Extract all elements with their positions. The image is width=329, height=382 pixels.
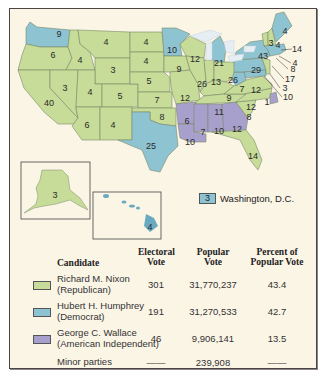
ev-ga: 12 bbox=[232, 124, 242, 134]
ev-al: 10 bbox=[214, 126, 224, 136]
ev-nc: 12 bbox=[246, 102, 256, 112]
ev-ma: 14 bbox=[292, 44, 302, 54]
ev-mi: 21 bbox=[214, 58, 224, 68]
table-row-wallace: George C. Wallace (American Independent)… bbox=[0, 328, 329, 354]
ev-nc-wallace: 1 bbox=[264, 97, 269, 107]
ev-md: 10 bbox=[283, 92, 293, 102]
popular-vote: 31,270,533 bbox=[183, 306, 243, 317]
percent-vote: 43.4 bbox=[255, 279, 299, 290]
percent-vote: 13.5 bbox=[255, 333, 299, 344]
ev-ne: 5 bbox=[146, 76, 151, 86]
electoral-vote: 191 bbox=[141, 306, 171, 317]
ev-nm: 4 bbox=[110, 120, 115, 130]
ev-ny: 43 bbox=[258, 51, 268, 61]
popular-vote: 9,906,141 bbox=[183, 333, 243, 344]
ev-ar: 6 bbox=[184, 116, 189, 126]
ev-ca: 40 bbox=[44, 98, 54, 108]
ev-ok: 8 bbox=[159, 112, 164, 122]
state-fl bbox=[212, 130, 262, 170]
ev-wv: 7 bbox=[239, 84, 244, 94]
candidate-name: Hubert H. Humphrey bbox=[57, 301, 144, 312]
percent-vote: 42.7 bbox=[255, 306, 299, 317]
header-electoral-vote: Electoral Vote bbox=[138, 247, 174, 267]
ev-mn: 10 bbox=[167, 45, 177, 55]
state-nm bbox=[100, 107, 132, 140]
ev-me: 4 bbox=[282, 26, 287, 36]
candidate-name: Richard M. Nixon bbox=[57, 274, 130, 285]
ev-ks: 7 bbox=[154, 95, 159, 105]
ev-tn: 11 bbox=[214, 107, 223, 117]
lake-michigan bbox=[206, 42, 212, 60]
electoral-vote: —— bbox=[141, 357, 171, 368]
ev-ky: 9 bbox=[226, 93, 231, 103]
ev-ia: 9 bbox=[176, 64, 181, 74]
candidate-party: (Republican) bbox=[57, 285, 130, 296]
ev-la: 10 bbox=[185, 137, 195, 147]
ev-tx: 25 bbox=[146, 141, 156, 151]
ev-ms: 7 bbox=[200, 127, 205, 137]
candidate-name: Minor parties bbox=[57, 357, 112, 368]
ev-ak: 3 bbox=[52, 190, 57, 200]
dc-label: Washington, D.C. bbox=[220, 193, 294, 204]
ev-va: 12 bbox=[251, 85, 261, 95]
ev-or: 6 bbox=[50, 50, 55, 60]
ev-az: 6 bbox=[84, 120, 89, 130]
ev-vt: 3 bbox=[268, 38, 273, 48]
dc-legend: 3 Washington, D.C. bbox=[199, 193, 294, 204]
ev-in: 13 bbox=[211, 77, 221, 87]
ev-hi: 4 bbox=[147, 222, 152, 232]
table-row-humphrey: Hubert H. Humphrey (Democrat) 191 31,270… bbox=[0, 301, 329, 327]
popular-vote: 31,770,237 bbox=[183, 279, 243, 290]
ev-ut: 4 bbox=[87, 87, 92, 97]
ev-nd: 4 bbox=[143, 37, 148, 47]
ev-fl: 14 bbox=[248, 151, 258, 161]
swatch-american-independent bbox=[33, 335, 51, 344]
swatch-republican bbox=[33, 281, 51, 290]
ev-oh: 26 bbox=[228, 75, 238, 85]
header-candidate: Candidate bbox=[57, 258, 99, 268]
ev-wa: 9 bbox=[56, 29, 61, 39]
ev-wy: 3 bbox=[110, 65, 115, 75]
ev-wi: 12 bbox=[190, 54, 200, 64]
popular-vote: 239,908 bbox=[183, 357, 243, 368]
state-wa bbox=[26, 22, 70, 47]
percent-vote: —— bbox=[255, 357, 299, 368]
ev-pa: 29 bbox=[251, 65, 261, 75]
header-popular-vote: Popular Vote bbox=[188, 247, 238, 267]
table-row-nixon: Richard M. Nixon (Republican) 301 31,770… bbox=[0, 274, 329, 300]
electoral-vote: 301 bbox=[141, 279, 171, 290]
ev-id: 4 bbox=[77, 55, 82, 65]
ev-nv: 3 bbox=[62, 83, 67, 93]
state-nc-wallace bbox=[270, 92, 278, 104]
ev-mo: 12 bbox=[180, 93, 190, 103]
table-row-minor: Minor parties —— 239,908 —— bbox=[0, 355, 329, 381]
state-or bbox=[18, 44, 72, 70]
swatch-democrat bbox=[33, 308, 51, 317]
lake-ontario bbox=[244, 46, 256, 52]
header-percent: Percent of Popular Vote bbox=[243, 247, 311, 267]
ev-sc: 8 bbox=[246, 112, 251, 122]
electoral-vote: 46 bbox=[141, 333, 171, 344]
ev-il: 26 bbox=[197, 79, 207, 89]
ev-nh: 4 bbox=[275, 40, 280, 50]
ev-co: 5 bbox=[117, 91, 122, 101]
ev-ct: 8 bbox=[290, 64, 295, 74]
ev-sd: 4 bbox=[143, 56, 148, 66]
candidate-party: (Democrat) bbox=[57, 312, 144, 323]
dc-swatch: 3 bbox=[199, 193, 216, 204]
ev-mt: 4 bbox=[103, 37, 108, 47]
